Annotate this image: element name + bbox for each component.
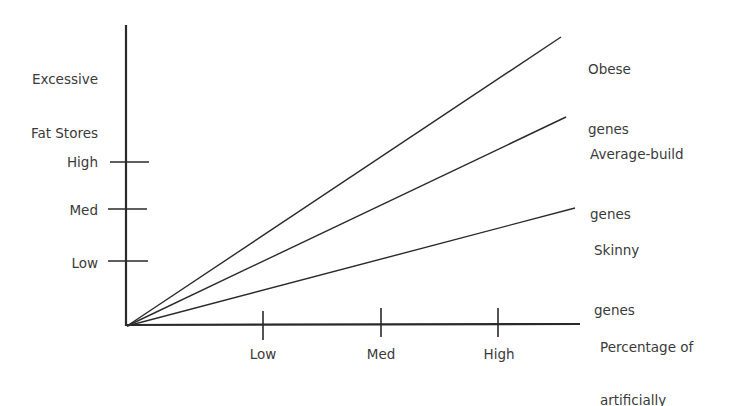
average-build-genes-line (127, 117, 566, 326)
x-tick-label-high: High (477, 345, 521, 363)
series-label-line: genes (594, 300, 639, 320)
x-axis-label-line: artificially (600, 392, 699, 406)
y-axis-label: Excessive Fat Stores (20, 34, 98, 160)
obese-genes-line (127, 37, 561, 326)
y-axis-label-line: Excessive (20, 70, 98, 88)
y-tick-label-high: High (40, 153, 98, 171)
x-axis (125, 324, 580, 325)
y-axis-label-line: Fat Stores (20, 124, 98, 142)
x-tick-label-med: Med (361, 345, 401, 363)
x-axis-label-line: Percentage of (600, 339, 699, 357)
y-tick-label-low: Low (40, 254, 98, 272)
series-label-line: Obese (588, 59, 631, 79)
skinny-genes-label: Skinny genes (594, 200, 639, 340)
skinny-genes-line (127, 208, 575, 326)
y-tick-label-med: Med (40, 201, 98, 219)
series-label-line: Skinny (594, 240, 639, 260)
x-tick-label-low: Low (243, 345, 283, 363)
series-label-line: Average-build (590, 144, 684, 164)
